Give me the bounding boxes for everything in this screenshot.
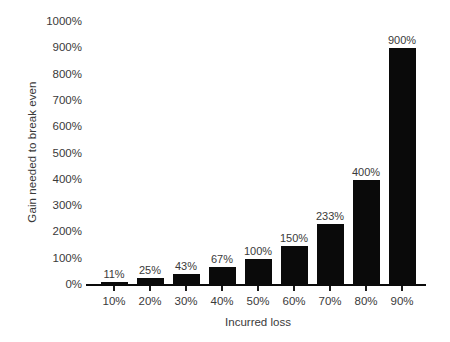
x-axis-tick xyxy=(401,286,403,291)
bar-slot: 233% xyxy=(312,10,348,285)
y-axis-tick-label: 200% xyxy=(18,225,82,237)
bar[interactable] xyxy=(281,246,308,285)
bar-value-label: 400% xyxy=(342,166,390,178)
y-axis-tick-label: 100% xyxy=(18,252,82,264)
x-axis-tick xyxy=(365,286,367,291)
y-axis-tick-label: 800% xyxy=(18,68,82,80)
bar-slot: 400% xyxy=(348,10,384,285)
y-axis-tick-label: 900% xyxy=(18,41,82,53)
y-axis-tick-label: 500% xyxy=(18,147,82,159)
bar-value-label: 233% xyxy=(306,210,354,222)
y-axis-tick-labels: 1000%900%800%700%600%500%400%300%200%100… xyxy=(18,0,82,342)
bar[interactable] xyxy=(389,48,416,285)
x-axis-ticks xyxy=(88,286,428,292)
bar[interactable] xyxy=(317,224,344,285)
x-axis-tick xyxy=(221,286,223,291)
bar-slot: 43% xyxy=(168,10,204,285)
bar-value-label: 100% xyxy=(234,245,282,257)
y-axis-tick-label: 0% xyxy=(18,278,82,290)
bar-slot: 100% xyxy=(240,10,276,285)
x-axis-tick-labels: 10%20%30%40%50%60%70%80%90% xyxy=(88,295,428,313)
x-axis-title: Incurred loss xyxy=(88,316,428,328)
x-axis-tick xyxy=(257,286,259,291)
x-axis-tick xyxy=(149,286,151,291)
x-axis-tick xyxy=(185,286,187,291)
bar[interactable] xyxy=(353,180,380,285)
bar-chart: Gain needed to break even 1000%900%800%7… xyxy=(0,0,450,342)
y-axis-tick-label: 1000% xyxy=(18,15,82,27)
bar-series: 11%25%43%67%100%150%233%400%900% xyxy=(88,10,428,285)
bar-slot: 11% xyxy=(96,10,132,285)
plot-area: 11%25%43%67%100%150%233%400%900% xyxy=(88,10,428,285)
y-axis-tick-label: 600% xyxy=(18,120,82,132)
bar-value-label: 150% xyxy=(270,232,318,244)
y-axis-tick-label: 300% xyxy=(18,199,82,211)
bar[interactable] xyxy=(209,267,236,285)
bar-slot: 25% xyxy=(132,10,168,285)
x-axis-tick xyxy=(113,286,115,291)
bar[interactable] xyxy=(245,259,272,285)
x-axis-tick-label: 90% xyxy=(378,295,426,307)
bar-value-label: 900% xyxy=(378,34,426,46)
bar-slot: 150% xyxy=(276,10,312,285)
bar-slot: 900% xyxy=(384,10,420,285)
x-axis-tick xyxy=(293,286,295,291)
y-axis-tick-label: 400% xyxy=(18,173,82,185)
x-axis-tick xyxy=(329,286,331,291)
y-axis-tick-label: 700% xyxy=(18,94,82,106)
